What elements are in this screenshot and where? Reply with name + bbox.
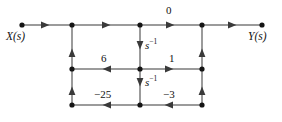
top-node-2[interactable] bbox=[137, 22, 142, 27]
arrowhead-top3-to-output bbox=[228, 22, 236, 29]
output-terminal-label: Y(s) bbox=[248, 31, 267, 43]
gain-label-bottom-right: −3 bbox=[163, 89, 175, 100]
input-terminal-label: X(s) bbox=[6, 31, 25, 43]
bottom-node-mid[interactable] bbox=[137, 102, 142, 107]
gain-label-integrator-lower: s−1 bbox=[145, 77, 157, 88]
arrowhead-group bbox=[41, 22, 236, 109]
gain-label-top-zero: 0 bbox=[166, 5, 172, 16]
middle-node-mid[interactable] bbox=[137, 66, 142, 71]
signal-flow-graph: X(s) Y(s) 0 s−1 s−1 6 1 −25 −3 bbox=[0, 0, 282, 122]
node-group bbox=[19, 22, 264, 107]
input-node[interactable] bbox=[19, 22, 24, 27]
arrowhead-integrator-lower bbox=[137, 78, 144, 86]
arrowhead-middle-mid-to-right bbox=[165, 66, 173, 73]
gain-label-middle-right: 1 bbox=[169, 53, 175, 64]
arrowhead-bottom-right-to-mid bbox=[165, 102, 173, 109]
top-node-3[interactable] bbox=[199, 22, 204, 27]
arrowhead-top2-to-top3 bbox=[166, 22, 174, 29]
gain-label-integrator-upper: s−1 bbox=[145, 40, 157, 51]
arrowhead-bottom-mid-to-left bbox=[103, 102, 111, 109]
arrowhead-middle-mid-to-left bbox=[103, 66, 111, 73]
signal-flow-graph-canvas bbox=[0, 0, 282, 122]
gain-label-bottom-left: −25 bbox=[94, 89, 111, 100]
arrowhead-bottom-left-to-middle bbox=[69, 87, 76, 95]
arrowhead-integrator-upper bbox=[137, 41, 144, 49]
gain-label-middle-left: 6 bbox=[101, 53, 107, 64]
arrowhead-top1-to-top2 bbox=[102, 22, 110, 29]
bottom-node-left[interactable] bbox=[69, 102, 74, 107]
integrator-lower-exponent: −1 bbox=[149, 74, 157, 83]
arrowhead-middle-left-to-top1 bbox=[69, 49, 76, 57]
bottom-node-right[interactable] bbox=[199, 102, 204, 107]
arrowhead-bottom-right-to-middle bbox=[199, 87, 206, 95]
output-node[interactable] bbox=[259, 22, 264, 27]
arrowhead-middle-right-to-top3 bbox=[199, 49, 206, 57]
arrowhead-input-to-top1 bbox=[41, 22, 49, 29]
middle-node-left[interactable] bbox=[69, 66, 74, 71]
middle-node-right[interactable] bbox=[199, 66, 204, 71]
integrator-upper-exponent: −1 bbox=[149, 37, 157, 46]
top-node-1[interactable] bbox=[69, 22, 74, 27]
